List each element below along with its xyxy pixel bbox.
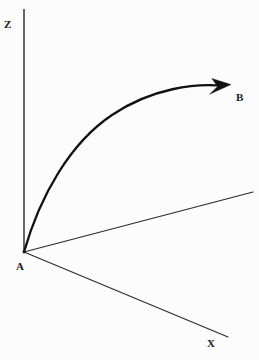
point-a-label: A [16,261,24,272]
origin-point-marker [23,251,26,254]
figure-canvas: Z A B X [0,0,259,360]
x-axis-line [24,252,228,337]
x-axis-label: X [207,338,215,349]
z-axis-label: Z [4,19,11,30]
trajectory-curve [24,85,224,252]
y-axis-line [24,192,253,252]
point-b-label: B [236,92,243,103]
diagram-svg [0,0,259,360]
